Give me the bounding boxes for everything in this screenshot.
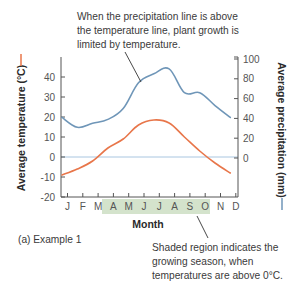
left-axis-label: Average temperature (°C) <box>15 65 27 191</box>
month-label: F <box>80 201 86 212</box>
annotation-precipitation-note: When the precipitation line is abovethe … <box>77 11 239 50</box>
climate-chart: -20-10010203040 020406080100 JFMAMJJASON… <box>0 0 303 294</box>
annotation-bottom-pointer <box>197 216 208 238</box>
left-tick-label: -10 <box>41 172 56 183</box>
left-tick-label: 40 <box>44 72 56 83</box>
x-axis-label: Month <box>132 218 164 230</box>
month-label: O <box>201 201 209 212</box>
precipitation-line <box>62 68 230 128</box>
right-tick-label: 100 <box>243 54 260 65</box>
left-tick-label: 20 <box>44 112 56 123</box>
right-axis-title: Average precipitation (mm) <box>276 62 288 198</box>
month-label: J <box>157 201 162 212</box>
annotation-line: limited by temperature. <box>77 39 181 50</box>
annotation-line: the temperature line, plant growth is <box>77 25 239 36</box>
annotation-line: When the precipitation line is above <box>77 11 238 22</box>
left-tick-label: 0 <box>49 152 55 163</box>
right-tick-label: 40 <box>243 113 255 124</box>
month-label: A <box>110 201 117 212</box>
figure-caption: (a) Example 1 <box>18 234 82 245</box>
month-label: D <box>232 201 239 212</box>
annotation-line: growing season, when <box>152 256 253 267</box>
annotation-growing-season-note: Shaded region indicates thegrowing seaso… <box>152 242 283 281</box>
annotation-top-pointer <box>125 52 141 82</box>
left-tick-label: 30 <box>44 92 56 103</box>
annotation-line: temperatures are above 0°C. <box>152 270 283 281</box>
month-label: M <box>125 201 133 212</box>
right-axis-label: Average precipitation (mm) <box>276 62 288 198</box>
left-axis-title: Average temperature (°C) <box>15 65 27 191</box>
month-label: S <box>187 201 194 212</box>
temperature-line <box>62 120 230 175</box>
right-tick-label: 0 <box>243 153 249 164</box>
right-tick-label: 20 <box>243 133 255 144</box>
annotation-line: Shaded region indicates the <box>152 242 279 253</box>
month-label: N <box>217 201 224 212</box>
month-label: J <box>142 201 147 212</box>
month-label: M <box>94 201 102 212</box>
month-label: A <box>171 201 178 212</box>
month-label: J <box>65 201 70 212</box>
right-tick-label: 80 <box>243 73 255 84</box>
left-tick-label: -20 <box>41 192 56 203</box>
right-tick-label: 60 <box>243 93 255 104</box>
left-tick-label: 10 <box>44 132 56 143</box>
